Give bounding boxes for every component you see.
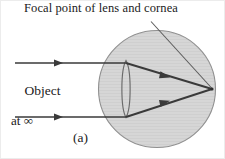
caption-title: Focal point of lens and cornea — [24, 2, 178, 15]
panel-label: (a) — [73, 131, 88, 145]
object-label-line-1: Object — [25, 83, 61, 98]
object-label-line-2: at ∞ — [11, 114, 61, 128]
upper-incoming-ray-arrowhead — [54, 59, 63, 66]
object-label: Object at ∞ — [11, 70, 61, 156]
eyeball-shape — [99, 31, 216, 148]
eye-ray-diagram-figure: Focal point of lens and cornea Object at… — [0, 0, 225, 159]
focal-point-marker — [210, 87, 213, 90]
